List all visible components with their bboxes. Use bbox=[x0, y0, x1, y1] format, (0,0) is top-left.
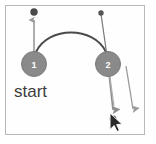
diagram-canvas: 1 2 start bbox=[0, 0, 156, 144]
start-label: start bbox=[14, 82, 47, 102]
vector-right-down bbox=[126, 66, 133, 109]
endpoint-dot-top-left bbox=[30, 8, 37, 15]
endpoint-dot-top-right bbox=[98, 10, 103, 15]
node-2-label: 2 bbox=[105, 60, 110, 70]
diagram-vector-layer: 1 2 bbox=[0, 0, 156, 144]
mouse-pointer-icon bbox=[110, 113, 122, 132]
node-1-label: 1 bbox=[31, 60, 36, 70]
motion-arc bbox=[36, 33, 106, 53]
node-1[interactable]: 1 bbox=[22, 52, 47, 77]
node-2[interactable]: 2 bbox=[96, 52, 121, 77]
